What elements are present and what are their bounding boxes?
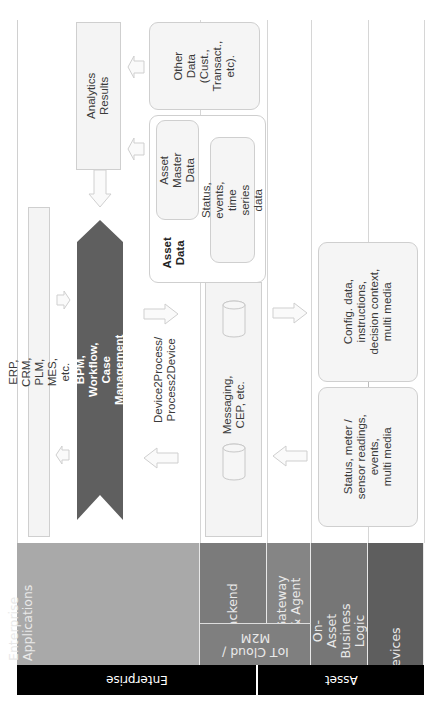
asset-data-title-label: Asset Data (161, 237, 187, 268)
asset-data-title: Asset Data (154, 225, 194, 280)
layer-backend: Backend (200, 543, 267, 623)
device2process-text: Device2Process/ Process2Device (145, 310, 185, 450)
layer-gateway-agent: Gateway & Agent (267, 543, 311, 623)
arrow-right-icon (272, 302, 308, 324)
database-icon (222, 300, 246, 338)
status-meter-label: Status, meter / sensor readings, events,… (342, 414, 394, 499)
status-meter-box: Status, meter / sensor readings, events,… (318, 387, 418, 527)
bpm-label: BPM, Workflow, Case Management (74, 335, 126, 405)
analytics-results-label: Analytics Results (86, 73, 112, 119)
lane-border-left (17, 20, 18, 543)
arrow-right-icon (143, 303, 179, 325)
arrow-left-icon (127, 137, 145, 161)
asset-master-data-label: Asset Master Data (158, 150, 197, 191)
layer-enterprise-applications-label: Enterprise Applications (7, 585, 35, 661)
database-icon (222, 443, 246, 481)
layer-iot-cloud-m2m: IoT Cloud / M2M (200, 623, 311, 665)
arrow-left-icon (143, 447, 179, 469)
layer-devices: Devices (368, 543, 424, 665)
status-events-timeseries-label: Status, events, time series data (200, 179, 264, 222)
erp-crm-box: ERP, CRM, PLM, MES, etc. (28, 207, 50, 537)
other-data-label: Other Data (Cust., Transact., etc). (172, 41, 236, 92)
other-data-box: Other Data (Cust., Transact., etc). (149, 22, 260, 110)
arrow-left-icon (127, 55, 145, 79)
connector (368, 382, 369, 387)
lane-divider-backend-gateway (267, 20, 268, 543)
asset-master-data-box: Asset Master Data (156, 120, 199, 220)
analytics-results-box: Analytics Results (76, 22, 121, 170)
arrow-right-icon (55, 290, 71, 310)
lane-border-right (424, 20, 425, 543)
erp-crm-label: ERP, CRM, PLM, MES, etc. (7, 357, 71, 386)
arrow-down-icon (88, 170, 112, 208)
bpm-ribbon-text: BPM, Workflow, Case Management (77, 245, 123, 495)
layer-iot-cloud-m2m-label: IoT Cloud / M2M (222, 631, 289, 659)
config-data-label: Config. data, instructions, decision con… (342, 269, 394, 355)
messaging-label: Messaging, CEP, etc. (221, 376, 247, 435)
group-asset: Asset (258, 665, 424, 695)
arrow-left-icon (272, 445, 308, 467)
group-asset-label: Asset (325, 673, 358, 687)
arrow-left-icon (55, 445, 71, 465)
layer-on-asset-label: On-Asset Business Logic (311, 603, 367, 659)
group-enterprise-label: Enterprise (106, 673, 168, 687)
device2process-label: Device2Process/ Process2Device (152, 337, 178, 423)
lane-divider-gateway-onasset (311, 20, 312, 543)
layer-on-asset-business-logic: On-Asset Business Logic (311, 543, 368, 665)
status-events-timeseries-box: Status, events, time series data (210, 137, 255, 263)
config-data-box: Config. data, instructions, decision con… (318, 242, 418, 382)
layer-enterprise-applications: Enterprise Applications (17, 543, 200, 665)
group-enterprise: Enterprise (17, 665, 257, 695)
